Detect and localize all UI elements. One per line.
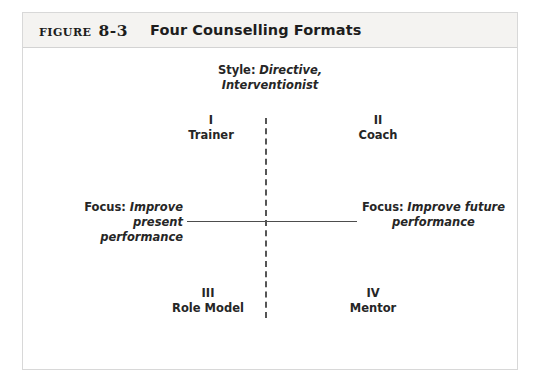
quadrant-1-roman: I: [146, 113, 276, 128]
focus-left-value-line1: Improve present: [130, 200, 183, 229]
quadrant-1-name: Trainer: [146, 128, 276, 143]
figure-label: Figure: [39, 21, 91, 40]
quadrant-bottom-right: IV Mentor: [308, 286, 438, 316]
style-top-value-line1: Directive,: [259, 63, 322, 77]
quadrant-2-roman: II: [313, 113, 443, 128]
focus-label-left: Focus: Improve present performance: [43, 200, 183, 245]
figure-title: Four Counselling Formats: [150, 22, 361, 38]
focus-left-head: Focus:: [84, 200, 126, 214]
quadrant-4-name: Mentor: [308, 301, 438, 316]
quadrant-3-name: Role Model: [143, 301, 273, 316]
style-top-value-line2: Interventionist: [23, 78, 517, 93]
focus-right-head: Focus:: [362, 200, 404, 214]
quadrant-2-name: Coach: [313, 128, 443, 143]
quadrant-top-left: I Trainer: [146, 113, 276, 143]
quadrant-bottom-left: III Role Model: [143, 286, 273, 316]
figure-number: 8-3: [98, 21, 128, 40]
style-top-head: Style:: [218, 63, 256, 77]
style-label-top: Style: Directive, Interventionist: [23, 63, 517, 93]
figure-frame: Figure 8-3 Four Counselling Formats Styl…: [22, 12, 518, 370]
focus-right-value-line2: performance: [361, 215, 506, 230]
focus-left-value-line2: performance: [43, 230, 183, 245]
figure-header: Figure 8-3 Four Counselling Formats: [23, 13, 517, 48]
quadrant-3-roman: III: [143, 286, 273, 301]
quadrant-4-roman: IV: [308, 286, 438, 301]
horizontal-axis-line: [187, 221, 357, 222]
quadrant-top-right: II Coach: [313, 113, 443, 143]
focus-label-right: Focus: Improve future performance: [361, 200, 506, 230]
focus-right-value-line1: Improve future: [407, 200, 505, 214]
figure-body: Style: Directive, Interventionist I Trai…: [23, 48, 517, 369]
